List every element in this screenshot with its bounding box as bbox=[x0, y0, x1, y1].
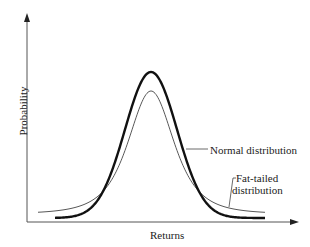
chart-plot bbox=[0, 0, 310, 247]
fat-label-line1: Fat-tailed bbox=[236, 172, 283, 184]
x-axis-label: Returns bbox=[150, 229, 184, 241]
fat-label-line2: distribution bbox=[232, 184, 283, 196]
chart: Probability Returns Normal distribution … bbox=[0, 0, 310, 247]
fat-tailed-distribution-label: Fat-tailed distribution bbox=[236, 172, 283, 196]
normal-distribution-label: Normal distribution bbox=[210, 144, 297, 156]
y-axis-arrow-icon bbox=[24, 13, 30, 22]
x-axis-arrow-icon bbox=[290, 219, 299, 225]
y-axis-label: Probability bbox=[17, 76, 29, 146]
